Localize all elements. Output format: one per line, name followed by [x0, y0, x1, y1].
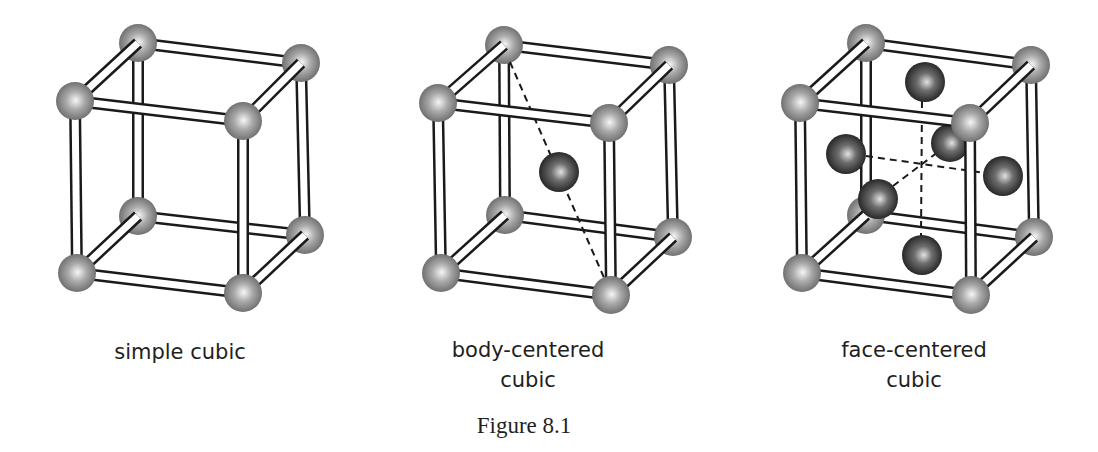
atom-face-front — [858, 179, 898, 219]
atom-front-bottom-right — [592, 276, 630, 314]
atom-front-top-left — [781, 84, 819, 122]
caption-line-1: face-centered — [841, 335, 987, 365]
body-centered-cubic-cell — [419, 26, 692, 314]
front-rods — [75, 101, 243, 293]
back-rods — [138, 43, 305, 235]
atom-front-bottom-left — [783, 254, 821, 292]
atom-face-left — [826, 134, 866, 174]
atom-face-right — [983, 156, 1023, 196]
atom-face-top — [905, 62, 945, 102]
atom-body-center — [539, 152, 579, 192]
atom-front-top-left — [419, 84, 457, 122]
atom-front-bottom-left — [422, 254, 460, 292]
back-rods — [504, 45, 673, 237]
front-rods — [438, 103, 611, 295]
atom-front-top-right — [590, 104, 628, 142]
atom-front-bottom-right — [952, 276, 990, 314]
face-centered-cubic-cell — [781, 24, 1053, 314]
caption-simple-cubic: simple cubic — [114, 337, 246, 367]
atom-face-bottom — [902, 235, 942, 275]
figure-title: Figure 8.1 — [477, 413, 572, 439]
atom-front-top-left — [56, 82, 94, 120]
caption-line-1: simple cubic — [114, 337, 246, 367]
atom-front-bottom-left — [58, 254, 96, 292]
atom-front-top-right — [224, 102, 262, 140]
caption-body-centered-cubic: body-centered cubic — [452, 335, 605, 395]
atom-front-bottom-right — [224, 274, 262, 312]
caption-line-2: cubic — [452, 365, 605, 395]
depth-rods — [75, 43, 305, 293]
simple-cubic-cell — [56, 24, 324, 312]
caption-line-1: body-centered — [452, 335, 605, 365]
atom-front-top-right — [951, 104, 989, 142]
caption-line-2: cubic — [841, 365, 987, 395]
caption-face-centered-cubic: face-centered cubic — [841, 335, 987, 395]
